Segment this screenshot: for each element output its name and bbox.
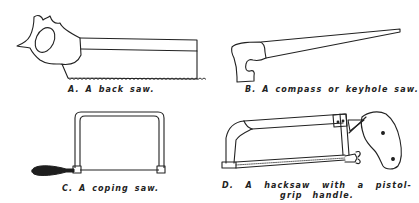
back-saw-illustration — [0, 0, 419, 203]
caption-b: B. A compass or keyhole saw. — [245, 85, 419, 94]
keyhole-saw-illustration — [232, 29, 400, 82]
caption-c: C. A coping saw. — [62, 184, 159, 193]
caption-d: D. A hacksaw with a pistol-grip handle. — [222, 181, 412, 201]
coping-saw-illustration — [73, 112, 165, 173]
saw-types-figure: A. A back saw. B. A compass or keyhole s… — [0, 0, 419, 203]
coping-saw-handle — [32, 166, 74, 176]
caption-a: A. A back saw. — [68, 85, 155, 94]
hacksaw-illustration — [222, 112, 401, 169]
